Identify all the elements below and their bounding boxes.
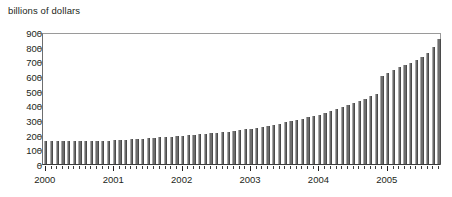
bar <box>170 137 173 164</box>
bar <box>244 129 247 164</box>
x-axis-major-tick-mark <box>318 166 319 171</box>
x-axis-tick-mark <box>193 166 194 169</box>
x-axis-tick-mark <box>108 166 109 169</box>
x-axis-tick-mark <box>204 166 205 169</box>
x-axis-tick-mark <box>170 166 171 169</box>
x-axis-tick-mark <box>381 166 382 169</box>
bar <box>198 134 201 164</box>
x-axis-tick-mark <box>233 166 234 169</box>
x-axis-tick-mark <box>341 166 342 169</box>
x-axis-tick-mark <box>393 166 394 169</box>
bar <box>152 138 155 164</box>
x-axis-tick-mark <box>51 166 52 169</box>
x-axis-tick-mark <box>119 166 120 169</box>
x-axis-tick-mark <box>421 166 422 169</box>
x-axis-tick-mark <box>90 166 91 169</box>
x-axis-tick-mark <box>165 166 166 169</box>
bar <box>261 127 264 164</box>
bar <box>392 70 395 164</box>
bar <box>67 141 70 164</box>
x-axis-tick-mark <box>210 166 211 169</box>
bar <box>272 125 275 164</box>
bar <box>346 105 349 164</box>
x-axis-tick-mark <box>216 166 217 169</box>
bar <box>295 120 298 164</box>
bar <box>192 135 195 164</box>
x-axis-major-tick-mark <box>182 166 183 171</box>
x-axis-tick-mark <box>336 166 337 169</box>
x-axis-tick-mark <box>290 166 291 169</box>
x-axis-tick-mark <box>79 166 80 169</box>
x-axis-tick-mark <box>438 166 439 169</box>
x-axis-tick-mark <box>96 166 97 169</box>
x-axis-tick-mark <box>261 166 262 169</box>
bar <box>386 73 389 164</box>
bar <box>363 99 366 164</box>
bar <box>238 130 241 164</box>
bar <box>141 139 144 164</box>
x-axis-tick-label: 2005 <box>376 174 397 185</box>
bar <box>147 138 150 164</box>
x-axis-tick-mark <box>324 166 325 169</box>
bar <box>375 94 378 164</box>
x-axis-major-tick-mark <box>250 166 251 171</box>
bar <box>175 136 178 164</box>
bar <box>301 119 304 164</box>
bar <box>437 39 440 164</box>
bar <box>358 101 361 164</box>
x-axis-tick-mark <box>375 166 376 169</box>
bar <box>158 137 161 164</box>
bar <box>415 60 418 164</box>
bar <box>432 47 435 164</box>
x-axis-tick-mark <box>85 166 86 169</box>
x-axis-tick-mark <box>273 166 274 169</box>
x-axis-tick-mark <box>244 166 245 169</box>
x-axis-tick-mark <box>147 166 148 169</box>
x-axis-tick-mark <box>427 166 428 169</box>
bar <box>306 117 309 164</box>
bar <box>187 135 190 164</box>
bar <box>398 67 401 164</box>
x-axis-tick-label: 2004 <box>308 174 329 185</box>
x-axis-tick-mark <box>279 166 280 169</box>
x-axis-tick-mark <box>330 166 331 169</box>
bar <box>107 141 110 164</box>
x-axis-tick-mark <box>136 166 137 169</box>
x-axis-major-tick-mark <box>45 166 46 171</box>
bar <box>369 96 372 164</box>
x-axis-tick-mark <box>199 166 200 169</box>
bar <box>135 139 138 164</box>
x-axis-tick-mark <box>284 166 285 169</box>
bar <box>420 57 423 164</box>
bar <box>50 141 53 164</box>
x-axis-tick-label: 2000 <box>34 174 55 185</box>
bar <box>90 141 93 164</box>
x-axis-tick-label: 2001 <box>103 174 124 185</box>
bar <box>118 140 121 164</box>
x-axis-tick-mark <box>370 166 371 169</box>
x-axis-tick-mark <box>142 166 143 169</box>
bar <box>78 141 81 164</box>
bar <box>318 115 321 164</box>
bar <box>84 141 87 164</box>
bar <box>204 134 207 164</box>
x-axis-tick-mark <box>296 166 297 169</box>
x-axis-tick-label: 2003 <box>239 174 260 185</box>
x-axis-tick-mark <box>410 166 411 169</box>
x-axis-tick-mark <box>102 166 103 169</box>
bar <box>232 131 235 164</box>
bar <box>124 140 127 164</box>
bar <box>130 139 133 164</box>
bar <box>380 76 383 164</box>
bar <box>95 141 98 164</box>
bar-series <box>43 34 440 164</box>
bar <box>101 141 104 164</box>
bar <box>312 116 315 164</box>
bar <box>221 132 224 164</box>
x-axis-tick-mark <box>404 166 405 169</box>
x-axis-tick-mark <box>432 166 433 169</box>
bar <box>278 124 281 164</box>
bar <box>56 141 59 164</box>
bar <box>266 126 269 164</box>
bar <box>329 111 332 164</box>
